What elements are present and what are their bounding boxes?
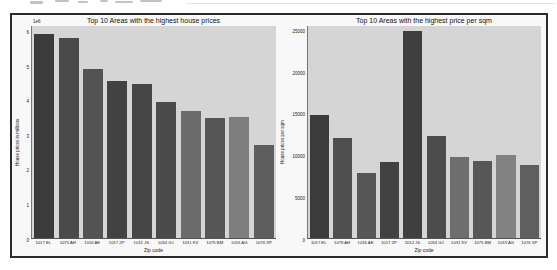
bar-1075-bm [473,161,492,238]
x-tick-label: 1031 KV [447,239,470,247]
x-axis-label: Zip code [307,247,541,255]
y-tick-label: 5 [26,66,29,71]
bar-1015-ag [496,155,515,238]
cropped-content-artifact [0,0,557,7]
bar-1031-kv [181,111,201,238]
plot-area: 1e6 [31,26,276,239]
bar-1015-ag [229,117,249,238]
y-tick-label: 25000 [292,30,305,35]
y-tick-label: 4 [26,101,29,106]
x-tick-label: 1075 AH [56,239,81,247]
y-tick-label: 10000 [292,155,305,160]
y-axis-ticks: 0500010000150002000025000 [287,26,307,241]
x-tick-label: 1075 BM [471,239,494,247]
x-tick-label: 1016 AE [80,239,105,247]
y-tick-label: 2 [26,170,29,175]
x-tick-label: 1079 AH [330,239,353,247]
x-tick-label: 1017 EL [307,239,330,247]
bar-1031-kv [450,157,469,239]
y-tick-label: 0 [302,239,305,244]
y-axis-offset-label: 1e6 [33,20,41,25]
y-tick-label: 3 [26,135,29,140]
bar-1075-ah [59,38,79,238]
x-axis-label: Zip code [31,247,276,255]
x-tick-label: 1076 XP [518,239,541,247]
x-tick-label: 1031 KV [178,239,203,247]
subplot-house-prices: House prices in millions 0123456 Top 10 … [14,16,279,255]
subplot-price-per-sqm: House prices per sqm 0500010000150002000… [279,16,544,255]
chart-title: Top 10 Areas with the highest price per … [307,16,541,26]
bar-1017-el [34,34,54,239]
bar-1076-xp [520,165,539,238]
x-axis-ticks: 1017 EL1079 AH1016 AE1017 ZP1012 JS1054 … [307,239,541,247]
bar-1012-js [403,31,422,238]
y-tick-label: 15000 [292,114,305,119]
bar-1075-bm [205,118,225,238]
y-tick-label: 6 [26,31,29,36]
x-tick-label: 1054 GJ [424,239,447,247]
bar-1017-zp [380,162,399,238]
bar-1012-js [132,84,152,238]
bar-1054-gj [427,136,446,238]
y-tick-label: 5000 [295,197,305,202]
x-tick-label: 1017 ZP [377,239,400,247]
x-tick-label: 1016 AE [354,239,377,247]
bar-1017-zp [107,81,127,238]
bar-1017-el [310,115,329,238]
y-tick-label: 20000 [292,72,305,77]
x-tick-label: 1076 XP [252,239,277,247]
bar-1016-ae [83,69,103,238]
x-tick-label: 1017 ZP [105,239,130,247]
x-tick-label: 1017 EL [31,239,56,247]
plot-area [307,26,541,239]
y-axis-label: House prices in millions [14,16,22,255]
figure-frame: House prices in millions 0123456 Top 10 … [10,13,548,258]
bar-1076-xp [254,145,274,238]
x-tick-label: 1075 BM [203,239,228,247]
bar-1079-ah [333,138,352,238]
bar-1054-gj [156,102,176,238]
x-tick-label: 1012 JS [129,239,154,247]
x-tick-label: 1015 AG [227,239,252,247]
x-axis-ticks: 1017 EL1075 AH1016 AE1017 ZP1012 JS1054 … [31,239,276,247]
bar-1016-ae [357,173,376,238]
y-axis-ticks: 0123456 [22,26,31,241]
y-axis-label: House prices per sqm [279,16,287,255]
y-tick-label: 1 [26,204,29,209]
x-tick-label: 1054 GJ [154,239,179,247]
x-tick-label: 1015 AG [494,239,517,247]
x-tick-label: 1012 JS [401,239,424,247]
chart-title: Top 10 Areas with the highest house pric… [31,16,276,26]
y-tick-label: 0 [26,239,29,244]
